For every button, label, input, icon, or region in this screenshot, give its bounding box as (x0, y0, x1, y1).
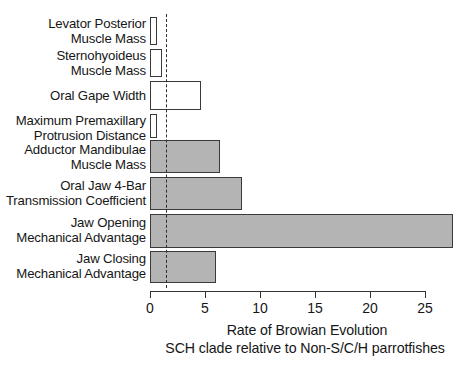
category-label: Jaw Opening Mechanical Advantage (0, 215, 146, 245)
x-axis-line (150, 291, 425, 292)
x-axis: 0 5 10 15 20 25 (150, 291, 430, 292)
category-label: Oral Jaw 4-Bar Transmission Coefficient (0, 178, 146, 208)
x-axis-tick (205, 291, 206, 298)
category-label-line2: Mechanical Advantage (0, 230, 146, 245)
category-label-line1: Oral Gape Width (0, 88, 146, 103)
category-label: Sternohyoideus Muscle Mass (0, 48, 146, 78)
x-axis-tick-label: 25 (417, 300, 433, 316)
x-axis-tick (425, 291, 426, 298)
bar-levator-posterior-muscle-mass (150, 17, 157, 45)
category-label-line1: Jaw Opening (0, 215, 146, 230)
bar-adductor-mandibulae-muscle-mass (150, 140, 220, 173)
x-axis-tick-label: 15 (307, 300, 323, 316)
category-label-line1: Oral Jaw 4-Bar (0, 178, 146, 193)
x-axis-tick (260, 291, 261, 298)
category-label-line1: Sternohyoideus (0, 48, 146, 63)
category-label-line1: Adductor Mandibulae (0, 142, 146, 157)
reference-line (166, 14, 167, 288)
category-label-line1: Maximum Premaxillary (0, 113, 146, 128)
category-label-column: Levator Posterior Muscle Mass Sternohyoi… (0, 0, 146, 292)
x-axis-tick-label: 10 (252, 300, 268, 316)
category-label-line1: Jaw Closing (0, 251, 146, 266)
x-axis-tick (370, 291, 371, 298)
category-label: Adductor Mandibulae Muscle Mass (0, 142, 146, 172)
category-label-line2: Muscle Mass (0, 157, 146, 172)
category-label-line2: Transmission Coefficient (0, 193, 146, 208)
bar-sternohyoideus-muscle-mass (150, 49, 162, 77)
bar-maximum-premaxillary-protrusion-distance (150, 114, 157, 138)
category-label: Maximum Premaxillary Protrusion Distance (0, 113, 146, 143)
bar-jaw-closing-mechanical-advantage (150, 251, 216, 283)
category-label: Oral Gape Width (0, 88, 146, 103)
x-axis-tick-label: 0 (146, 300, 154, 316)
bar-chart: Levator Posterior Muscle Mass Sternohyoi… (0, 0, 464, 365)
plot-area (150, 0, 464, 292)
category-label: Levator Posterior Muscle Mass (0, 16, 146, 46)
category-label-line1: Levator Posterior (0, 16, 146, 31)
category-label-line2: Protrusion Distance (0, 128, 146, 143)
bar-oral-gape-width (150, 81, 201, 110)
x-axis-tick-label: 20 (362, 300, 378, 316)
category-label-line2: Muscle Mass (0, 31, 146, 46)
bar-oral-jaw-4-bar-transmission-coefficient (150, 177, 242, 210)
x-axis-title: Rate of Browian Evolution SCH clade rela… (150, 322, 464, 357)
bar-jaw-opening-mechanical-advantage (150, 214, 453, 248)
x-axis-tick (150, 291, 151, 298)
x-axis-title-line1: Rate of Browian Evolution (150, 322, 464, 340)
x-axis-tick-label: 5 (201, 300, 209, 316)
category-label-line2: Muscle Mass (0, 63, 146, 78)
category-label-line2: Mechanical Advantage (0, 266, 146, 281)
category-label: Jaw Closing Mechanical Advantage (0, 251, 146, 281)
x-axis-tick (315, 291, 316, 298)
x-axis-title-line2: SCH clade relative to Non-S/C/H parrotfi… (146, 340, 464, 358)
